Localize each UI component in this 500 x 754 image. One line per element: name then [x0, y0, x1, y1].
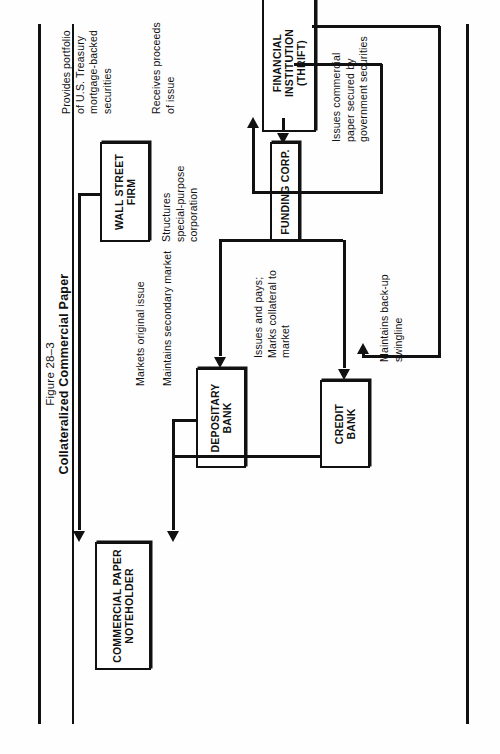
edge-fund-to-cred-segment-horizontal [343, 240, 346, 368]
edge-cred-to-cp-segment-vertical [172, 455, 322, 458]
edge-fund-to-cred-arrowhead [338, 369, 350, 380]
edge-fi-loop-bottom [380, 64, 383, 194]
node-label: DEPOSITARY BANK [209, 379, 233, 456]
page-rule-under-caption [72, 24, 74, 724]
edge-dep-to-cp-segment-vertical [172, 419, 198, 422]
edge-fund-to-dep-segment-horizontal [219, 240, 222, 356]
node-commercial-paper-noteholder[interactable]: COMMERCIAL PAPER NOTEHOLDER [95, 542, 151, 670]
annotation-provides-portfolio: Provides portfolio of U.S. Treasury mort… [60, 0, 114, 114]
node-label: CREDIT BANK [333, 400, 357, 448]
node-financial-institution[interactable]: FINANCIAL INSTITUTION (THRIFT) [262, 0, 316, 132]
node-label: COMMERCIAL PAPER NOTEHOLDER [111, 545, 135, 667]
annotation-issues-commercial-paper: Issues commercial paper secured by gover… [330, 0, 371, 142]
edge-swingline-arrowhead [357, 343, 369, 354]
annotation-markets-original-issue: Markets original issue [134, 206, 148, 386]
edge-fund-to-dep-arrowhead [214, 357, 226, 368]
edge-fi-to-fund-arrowhead [277, 133, 289, 144]
edge-ws-to-cp-segment-vertical [78, 193, 102, 196]
scanned-page: Figure 28–3 Collateralized Commercial Pa… [0, 0, 500, 754]
node-depositary-bank[interactable]: DEPOSITARY BANK [196, 368, 246, 468]
page-rule-top [38, 24, 41, 724]
figure-caption: Figure 28–3 Collateralized Commercial Pa… [44, 24, 71, 724]
figure-title: Collateralized Commercial Paper [57, 24, 71, 724]
edge-ws-to-cp-segment-horizontal [78, 194, 81, 530]
edge-fi-loop-arrowhead [247, 117, 259, 128]
edge-ws-to-cp-arrowhead [73, 531, 85, 542]
edge-fi-loop-return [252, 126, 255, 194]
edge-swingline-bottom [438, 26, 441, 358]
edge-fi-to-fund-segment-horizontal [282, 118, 285, 132]
edge-cred-to-cp-riser [172, 420, 175, 458]
page-rule-bottom [466, 24, 469, 724]
edge-dep-to-cp-arrowhead [167, 531, 179, 542]
annotation-issues-and-pays: Issues and pays; Marks collateral to mar… [252, 238, 293, 358]
annotation-structures-spc: Structures special-purpose corporation [160, 92, 201, 242]
figure-canvas: Figure 28–3 Collateralized Commercial Pa… [0, 0, 500, 754]
annotation-receives-proceeds: Receives proceeds of issue [150, 0, 177, 114]
edge-fi-loop-up [252, 191, 382, 194]
node-credit-bank[interactable]: CREDIT BANK [320, 380, 370, 468]
figure-number: Figure 28–3 [44, 24, 57, 724]
annotation-maintains-backup-swingline: Maintains back-up swingline [378, 232, 405, 362]
